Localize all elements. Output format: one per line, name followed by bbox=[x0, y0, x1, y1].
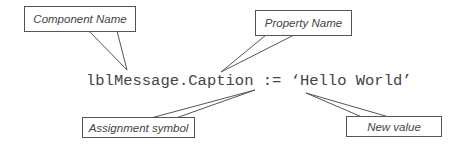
assignment-symbol-pointer bbox=[151, 90, 255, 118]
component-name-pointer bbox=[89, 31, 127, 70]
callout-assignment-symbol: Assignment symbol bbox=[82, 117, 195, 138]
code-annotation-diagram: Component Name Property Name lblMessage.… bbox=[0, 0, 462, 146]
callout-property-name: Property Name bbox=[255, 10, 352, 36]
callout-property-name-label: Property Name bbox=[265, 17, 342, 29]
callout-component-name-label: Component Name bbox=[33, 13, 126, 25]
new-value-pointer bbox=[306, 93, 389, 117]
callout-component-name: Component Name bbox=[24, 6, 136, 32]
code-statement: lblMessage.Caption := ‘Hello World’ bbox=[86, 72, 412, 90]
callout-assignment-symbol-label: Assignment symbol bbox=[89, 122, 189, 134]
callout-new-value: New value bbox=[346, 116, 442, 137]
callout-new-value-label: New value bbox=[367, 121, 421, 133]
property-name-pointer bbox=[221, 35, 294, 72]
